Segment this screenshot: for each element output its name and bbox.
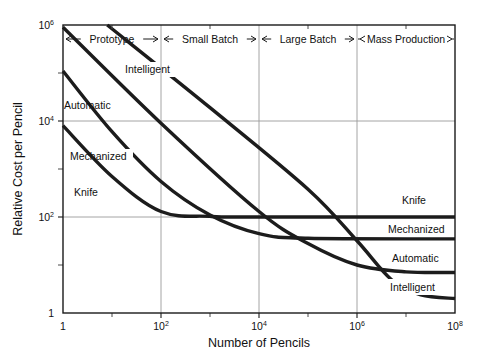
curve-label-right-automatic: Automatic bbox=[392, 252, 439, 264]
ytick-label-2: 102 bbox=[38, 211, 54, 223]
tick-layer bbox=[58, 25, 406, 318]
ytick-label-0: 106 bbox=[38, 19, 54, 31]
curve-label-left-knife: Knife bbox=[74, 186, 98, 198]
curve-label-left-automatic: Automatic bbox=[64, 99, 111, 111]
x-axis-title: Number of Pencils bbox=[208, 336, 310, 350]
ytick-label-1: 104 bbox=[38, 115, 54, 127]
curve-label-right-knife: Knife bbox=[402, 194, 426, 206]
curve-label-left-intelligent: Intelligent bbox=[125, 63, 170, 75]
curve-label-left-mechanized: Mechanized bbox=[70, 150, 127, 162]
curve-label-right-mechanized: Mechanized bbox=[388, 223, 445, 235]
curve-label-right-intelligent: Intelligent bbox=[390, 281, 435, 293]
xtick-label-2: 104 bbox=[251, 320, 267, 332]
regime-arrow-left-3 bbox=[360, 36, 365, 42]
xtick-label-1: 102 bbox=[153, 320, 169, 332]
regime-arrow-right-3 bbox=[447, 36, 452, 42]
cost-per-pencil-chart: PrototypeSmall BatchLarge BatchMass Prod… bbox=[0, 0, 484, 362]
chart-figure: PrototypeSmall BatchLarge BatchMass Prod… bbox=[0, 0, 484, 362]
regime-label-large-batch: Large Batch bbox=[280, 33, 337, 45]
regime-label-mass-production: Mass Production bbox=[367, 33, 445, 45]
xtick-label-0: 1 bbox=[60, 320, 66, 332]
xtick-label-4: 108 bbox=[447, 320, 463, 332]
ytick-label-3: 1 bbox=[48, 307, 54, 319]
xtick-label-3: 106 bbox=[349, 320, 365, 332]
y-axis-title: Relative Cost per Pencil bbox=[11, 102, 25, 235]
regime-label-small-batch: Small Batch bbox=[182, 33, 238, 45]
